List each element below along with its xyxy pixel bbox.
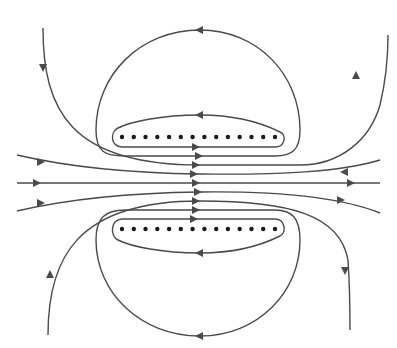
arrow-right-icon <box>192 161 200 169</box>
magnetic-field-diagram <box>0 0 397 348</box>
top-inner-loop <box>112 111 284 151</box>
arrow-right-icon <box>194 188 202 196</box>
arrow-right-icon <box>195 152 203 160</box>
bottom-outer-loop <box>96 206 300 340</box>
arrow-left-icon <box>195 26 203 34</box>
upper-entry-curve <box>17 155 380 178</box>
arrow-right-icon <box>192 197 200 205</box>
arrow-right-icon <box>192 179 200 187</box>
arrow-up-icon <box>46 270 54 278</box>
arrow-left-icon <box>195 332 203 340</box>
arrow-right-icon <box>190 215 198 223</box>
top-outer-loop <box>96 26 300 160</box>
arrow-down-icon <box>341 267 349 275</box>
central-field-lines <box>17 179 380 213</box>
bottom-inner-loop <box>112 215 284 257</box>
arrow-right-icon <box>192 143 200 151</box>
arrow-right-icon <box>33 179 41 187</box>
bottom-wire-row <box>120 227 277 231</box>
arrow-right-icon <box>192 206 200 214</box>
arrow-right-icon <box>190 170 198 178</box>
upper-left-curve <box>39 28 388 169</box>
arrow-left-icon <box>340 168 348 176</box>
arrow-right-icon <box>37 158 45 166</box>
arrow-right-icon <box>347 179 355 187</box>
lower-curve <box>46 197 350 335</box>
arrow-left-icon <box>195 249 203 257</box>
top-wire-row <box>120 135 277 139</box>
arrow-left-icon <box>195 111 203 119</box>
arrow-up-icon <box>352 71 360 79</box>
